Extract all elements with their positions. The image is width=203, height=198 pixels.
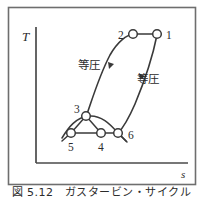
state-point-1-label: 1 bbox=[166, 29, 172, 41]
state-point-6-marker[interactable] bbox=[114, 129, 123, 138]
state-point-4-marker[interactable] bbox=[97, 129, 106, 138]
x-axis-label: s bbox=[181, 168, 185, 180]
state-point-5-marker[interactable] bbox=[67, 129, 76, 138]
ts-diagram: T s 等圧 等圧 1 2 3 4 5 6 bbox=[0, 0, 203, 198]
state-point-2-marker[interactable] bbox=[129, 30, 138, 39]
isobar-label-left: 等圧 bbox=[78, 58, 100, 72]
state-point-2-label: 2 bbox=[118, 29, 124, 41]
y-axis-label: T bbox=[22, 29, 30, 44]
flow-arrow-left-isobar bbox=[108, 62, 114, 69]
state-point-1-marker[interactable] bbox=[153, 30, 162, 39]
figure-container: T s 等圧 等圧 1 2 3 4 5 6 図 5.12 ガスタービン・サイクル bbox=[0, 0, 203, 198]
isobar-label-right: 等圧 bbox=[137, 72, 159, 86]
state-point-3-label: 3 bbox=[74, 103, 80, 115]
isobar-curve-3-2 bbox=[86, 34, 133, 117]
state-point-5-label: 5 bbox=[68, 141, 74, 153]
state-point-6-label: 6 bbox=[128, 129, 134, 141]
figure-caption: 図 5.12 ガスタービン・サイクル bbox=[0, 186, 203, 198]
state-point-4-label: 4 bbox=[98, 141, 104, 153]
state-point-3-marker[interactable] bbox=[82, 112, 91, 121]
